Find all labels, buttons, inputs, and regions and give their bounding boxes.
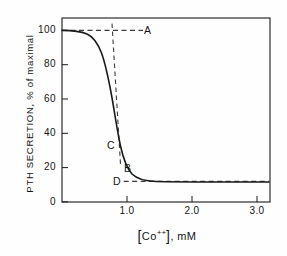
annotation-label-b: B <box>124 162 131 174</box>
annotation-label-a: A <box>144 24 151 36</box>
plot-frame <box>62 18 270 202</box>
annotation-label-d: D <box>113 175 121 187</box>
x-axis-units: , mM <box>170 230 196 242</box>
x-tick-label-3: 3.0 <box>242 205 272 216</box>
x-axis-ticks <box>127 196 257 202</box>
y-axis-title: PTH SECRETION, % of maximal <box>24 19 35 209</box>
x-axis-title: [Co++], mM <box>62 228 272 244</box>
annotation-label-c: C <box>107 139 115 151</box>
pth-secretion-curve <box>62 30 269 182</box>
y-axis-ticks <box>62 30 68 202</box>
x-axis-species: Co <box>142 230 157 242</box>
x-tick-label-2: 2.0 <box>177 205 207 216</box>
x-axis-charge: ++ <box>157 228 166 237</box>
x-tick-label-1: 1.0 <box>112 205 142 216</box>
figure-container: 0 20 40 60 80 100 1.0 2.0 3.0 A B C D PT… <box>0 0 287 256</box>
